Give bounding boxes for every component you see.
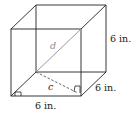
label-depth: 6 in. (95, 82, 116, 93)
label-height: 6 in. (110, 33, 131, 44)
face-diagonal-c (36, 72, 78, 93)
cube-diagram: d c 6 in. 6 in. 6 in. (0, 0, 138, 117)
space-diagonal-d (36, 29, 81, 72)
label-c: c (48, 81, 54, 92)
label-d: d (50, 40, 56, 51)
right-angle-marker-left (15, 92, 21, 96)
label-width: 6 in. (35, 100, 56, 111)
